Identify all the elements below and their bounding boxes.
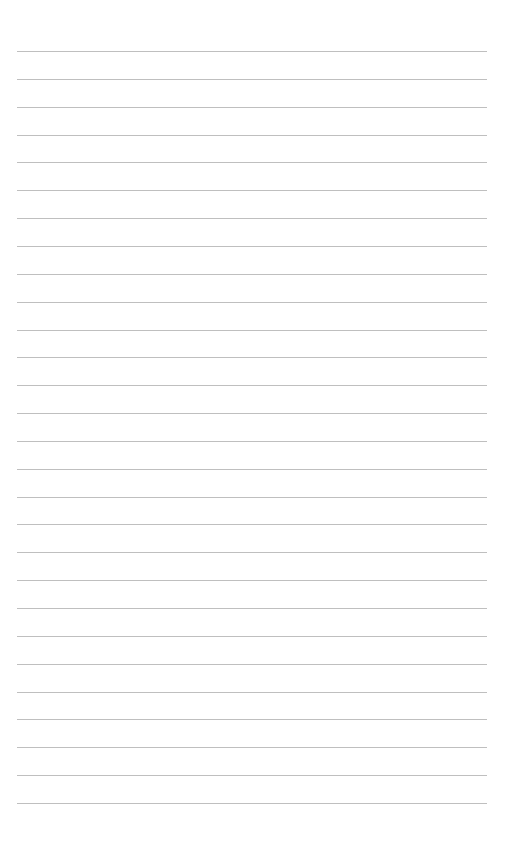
- ruled-line: [17, 580, 487, 581]
- ruled-line: [17, 775, 487, 776]
- ruled-line: [17, 524, 487, 525]
- ruled-line: [17, 497, 487, 498]
- ruled-line: [17, 162, 487, 163]
- ruled-line: [17, 692, 487, 693]
- ruled-line: [17, 747, 487, 748]
- ruled-line: [17, 79, 487, 80]
- ruled-line: [17, 357, 487, 358]
- ruled-line: [17, 441, 487, 442]
- ruled-line: [17, 664, 487, 665]
- ruled-line: [17, 302, 487, 303]
- ruled-line: [17, 552, 487, 553]
- lined-paper-sheet: [0, 0, 510, 845]
- ruled-line: [17, 51, 487, 52]
- ruled-line: [17, 469, 487, 470]
- ruled-line: [17, 719, 487, 720]
- ruled-line: [17, 330, 487, 331]
- ruled-line: [17, 190, 487, 191]
- ruled-line: [17, 636, 487, 637]
- ruled-line: [17, 274, 487, 275]
- ruled-line: [17, 246, 487, 247]
- ruled-line: [17, 413, 487, 414]
- ruled-line: [17, 135, 487, 136]
- ruled-line: [17, 608, 487, 609]
- ruled-line: [17, 218, 487, 219]
- ruled-line: [17, 385, 487, 386]
- ruled-line: [17, 107, 487, 108]
- ruled-line: [17, 803, 487, 804]
